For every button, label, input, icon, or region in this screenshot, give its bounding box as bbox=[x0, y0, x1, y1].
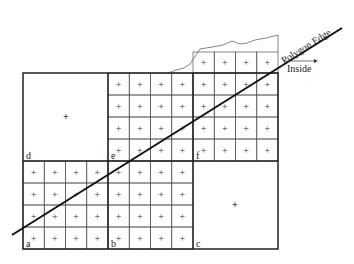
svg-text:+: + bbox=[31, 167, 37, 178]
svg-text:+: + bbox=[222, 123, 228, 134]
svg-text:+: + bbox=[222, 79, 228, 90]
svg-text:+: + bbox=[52, 167, 58, 178]
svg-text:+: + bbox=[137, 79, 143, 90]
svg-text:+: + bbox=[243, 123, 249, 134]
svg-text:+: + bbox=[137, 123, 143, 134]
svg-text:+: + bbox=[94, 211, 100, 222]
svg-text:+: + bbox=[158, 167, 164, 178]
svg-text:+: + bbox=[201, 101, 207, 112]
svg-text:+: + bbox=[158, 211, 164, 222]
label-c: c bbox=[196, 238, 201, 249]
svg-text:+: + bbox=[137, 167, 143, 178]
svg-text:+: + bbox=[116, 233, 122, 244]
svg-text:+: + bbox=[243, 145, 249, 156]
svg-text:+: + bbox=[201, 57, 207, 68]
svg-text:+: + bbox=[31, 233, 37, 244]
svg-text:+: + bbox=[94, 167, 100, 178]
svg-text:+: + bbox=[264, 101, 270, 112]
svg-text:+: + bbox=[201, 79, 207, 90]
svg-text:+: + bbox=[264, 145, 270, 156]
svg-text:+: + bbox=[31, 189, 37, 200]
svg-text:+: + bbox=[137, 101, 143, 112]
svg-text:+: + bbox=[158, 101, 164, 112]
svg-text:+: + bbox=[222, 57, 228, 68]
svg-text:+: + bbox=[137, 211, 143, 222]
svg-text:+: + bbox=[94, 233, 100, 244]
svg-text:+: + bbox=[52, 211, 58, 222]
fine-grid bbox=[23, 52, 278, 249]
svg-text:+: + bbox=[158, 233, 164, 244]
svg-text:+: + bbox=[158, 189, 164, 200]
svg-text:+: + bbox=[179, 211, 185, 222]
svg-text:+: + bbox=[116, 211, 122, 222]
svg-text:+: + bbox=[179, 145, 185, 156]
svg-text:+: + bbox=[116, 79, 122, 90]
label-a: a bbox=[26, 238, 31, 249]
svg-text:+: + bbox=[264, 79, 270, 90]
svg-text:+: + bbox=[243, 101, 249, 112]
svg-text:+: + bbox=[73, 211, 79, 222]
svg-text:+: + bbox=[158, 79, 164, 90]
svg-text:+: + bbox=[158, 145, 164, 156]
svg-text:+: + bbox=[179, 101, 185, 112]
svg-text:+: + bbox=[243, 57, 249, 68]
inside-label: Inside bbox=[287, 63, 312, 74]
svg-text:+: + bbox=[94, 189, 100, 200]
svg-text:+: + bbox=[73, 233, 79, 244]
label-d: d bbox=[26, 150, 31, 161]
svg-text:+: + bbox=[137, 189, 143, 200]
svg-text:+: + bbox=[73, 167, 79, 178]
svg-text:+: + bbox=[52, 233, 58, 244]
svg-text:+: + bbox=[201, 123, 207, 134]
label-f: f bbox=[196, 150, 200, 161]
svg-text:+: + bbox=[179, 79, 185, 90]
svg-text:+: + bbox=[222, 145, 228, 156]
quadtree-diagram: ++++++++++++++++++++++++++++++++++++++++… bbox=[0, 0, 354, 264]
label-e: e bbox=[111, 150, 116, 161]
svg-text:+: + bbox=[116, 101, 122, 112]
svg-text:+: + bbox=[264, 123, 270, 134]
center-c: + bbox=[232, 199, 238, 210]
polygon-edge-label: Polygon Edge bbox=[279, 26, 333, 66]
svg-text:+: + bbox=[201, 145, 207, 156]
center-d: + bbox=[63, 111, 69, 122]
svg-text:+: + bbox=[116, 189, 122, 200]
svg-text:+: + bbox=[179, 189, 185, 200]
svg-text:+: + bbox=[116, 123, 122, 134]
label-b: b bbox=[111, 238, 116, 249]
svg-text:+: + bbox=[179, 167, 185, 178]
svg-text:+: + bbox=[52, 189, 58, 200]
svg-text:+: + bbox=[158, 123, 164, 134]
svg-text:+: + bbox=[179, 233, 185, 244]
svg-text:+: + bbox=[137, 233, 143, 244]
svg-text:+: + bbox=[264, 57, 270, 68]
svg-text:+: + bbox=[116, 145, 122, 156]
